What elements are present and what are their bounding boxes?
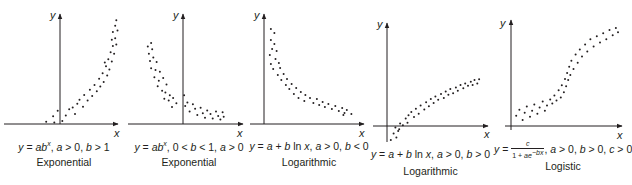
data-point bbox=[568, 66, 570, 68]
data-point bbox=[577, 62, 579, 64]
data-point bbox=[615, 27, 617, 29]
data-point bbox=[455, 87, 457, 89]
data-point bbox=[111, 39, 113, 41]
data-point bbox=[94, 84, 96, 86]
scatter-points bbox=[147, 42, 225, 121]
data-point bbox=[171, 106, 173, 108]
equation-exp-growth: y = abx, a > 0, b > 1 bbox=[8, 140, 120, 153]
data-point bbox=[584, 43, 586, 45]
data-point bbox=[278, 62, 280, 64]
data-point bbox=[558, 89, 560, 91]
data-point bbox=[273, 32, 275, 34]
data-point bbox=[65, 114, 67, 116]
data-point bbox=[113, 53, 115, 55]
data-point bbox=[194, 108, 196, 110]
data-point bbox=[183, 94, 185, 96]
logistic-conditions: , a > 0, b > 0, c > 0 bbox=[544, 143, 632, 155]
data-point bbox=[153, 76, 155, 78]
data-point bbox=[275, 58, 277, 60]
data-point bbox=[161, 90, 163, 92]
scatter-points bbox=[269, 28, 353, 116]
data-point bbox=[316, 98, 318, 100]
data-point bbox=[192, 103, 194, 105]
data-point bbox=[215, 110, 217, 112]
data-point bbox=[270, 39, 272, 41]
data-point bbox=[61, 120, 63, 122]
data-point bbox=[283, 73, 285, 75]
data-point bbox=[437, 99, 439, 101]
data-point bbox=[425, 101, 427, 103]
y-axis-label: y bbox=[253, 9, 261, 21]
data-point bbox=[164, 92, 166, 94]
data-point bbox=[115, 43, 117, 45]
scatter-points bbox=[515, 27, 619, 121]
data-point bbox=[172, 97, 174, 99]
data-point bbox=[111, 61, 113, 63]
data-point bbox=[150, 67, 152, 69]
equation-logistic: y = c1 + ae−bx, a > 0, b > 0, c > 0 bbox=[494, 140, 632, 160]
data-point bbox=[331, 108, 333, 110]
data-point bbox=[462, 87, 464, 89]
data-point bbox=[271, 48, 273, 50]
data-point bbox=[288, 88, 290, 90]
data-point bbox=[57, 110, 59, 112]
data-point bbox=[52, 115, 54, 117]
data-point bbox=[434, 96, 436, 98]
data-point bbox=[344, 112, 346, 114]
data-point bbox=[210, 113, 212, 115]
equation-log-increasing: y = a + b ln x, a > 0, b > 0 bbox=[368, 148, 493, 160]
x-axis-label: x bbox=[358, 127, 365, 139]
data-point bbox=[522, 119, 524, 121]
data-point bbox=[45, 121, 47, 123]
logistic-fraction: c1 + ae−bx bbox=[511, 140, 544, 160]
data-point bbox=[428, 105, 430, 107]
data-point bbox=[169, 94, 171, 96]
data-point bbox=[561, 84, 563, 86]
data-point bbox=[546, 105, 548, 107]
data-point bbox=[83, 94, 85, 96]
data-point bbox=[476, 82, 478, 84]
data-point bbox=[579, 49, 581, 51]
data-point bbox=[74, 113, 76, 115]
data-point bbox=[581, 56, 583, 58]
data-point bbox=[467, 85, 469, 87]
data-point bbox=[158, 80, 160, 82]
data-point bbox=[270, 63, 272, 65]
data-point bbox=[529, 116, 531, 118]
data-point bbox=[72, 107, 74, 109]
data-point bbox=[149, 60, 151, 62]
data-point bbox=[423, 109, 425, 111]
data-point bbox=[334, 105, 336, 107]
data-point bbox=[196, 114, 198, 116]
data-point bbox=[155, 69, 157, 71]
data-point bbox=[280, 79, 282, 81]
panel-logistic: y x bbox=[499, 17, 623, 141]
data-point bbox=[474, 79, 476, 81]
data-point bbox=[186, 101, 188, 103]
data-point bbox=[114, 25, 116, 27]
data-point bbox=[117, 29, 119, 31]
y-axis-label: y bbox=[376, 18, 384, 30]
data-point bbox=[293, 93, 295, 95]
data-point bbox=[609, 29, 611, 31]
model-label-logistic: Logistic bbox=[494, 160, 632, 172]
data-point bbox=[162, 77, 164, 79]
data-point bbox=[99, 86, 101, 88]
data-point bbox=[150, 42, 152, 44]
model-label-exp-decay: Exponential bbox=[128, 156, 250, 168]
data-point bbox=[166, 83, 168, 85]
data-point bbox=[430, 98, 432, 100]
data-point bbox=[291, 83, 293, 85]
data-point bbox=[443, 97, 445, 99]
data-point bbox=[285, 84, 287, 86]
data-point bbox=[98, 78, 100, 80]
data-point bbox=[544, 110, 546, 112]
data-point bbox=[147, 46, 149, 48]
data-point bbox=[148, 53, 150, 55]
data-point bbox=[223, 116, 225, 118]
data-point bbox=[204, 117, 206, 119]
x-axis-label: x bbox=[113, 127, 120, 139]
data-point bbox=[433, 102, 435, 104]
data-point bbox=[338, 110, 340, 112]
data-point bbox=[222, 111, 224, 113]
